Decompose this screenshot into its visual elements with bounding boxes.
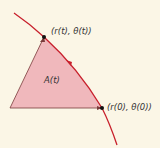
point-t-marker (42, 35, 46, 39)
point-t-label: (r(t), θ(t)) (51, 26, 92, 36)
point-0-marker (100, 106, 104, 110)
polar-area-diagram (0, 0, 160, 148)
region-label: A(t) (44, 75, 60, 85)
point-0-label: (r(0), θ(0)) (107, 102, 152, 112)
